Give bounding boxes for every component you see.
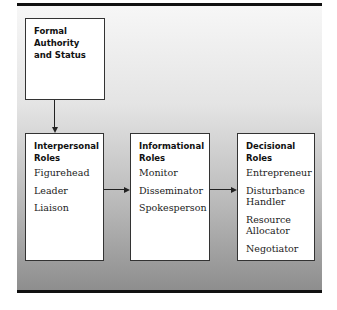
informational-roles-box: Informational Roles Monitor Disseminator… <box>130 133 210 261</box>
role-item: Figurehead <box>34 167 95 179</box>
interpersonal-roles-box: Interpersonal Roles Figurehead Leader Li… <box>25 133 104 261</box>
top-rule <box>17 3 322 6</box>
role-item: Entrepreneur <box>246 167 306 179</box>
decisional-roles-title: Decisional Roles <box>246 140 306 164</box>
connector-right-2 <box>210 189 231 190</box>
role-item: Resource Allocator <box>246 214 306 237</box>
role-item: Disseminator <box>139 185 201 197</box>
informational-roles-title: Informational Roles <box>139 140 201 164</box>
formal-authority-title: Formal Authority and Status <box>34 25 96 61</box>
role-item: Monitor <box>139 167 201 179</box>
connector-down <box>54 100 55 127</box>
decisional-roles-box: Decisional Roles Entrepreneur Disturbanc… <box>237 133 315 261</box>
bottom-rule <box>17 290 322 293</box>
connector-right-1 <box>104 189 124 190</box>
role-item: Leader <box>34 185 95 197</box>
role-item: Spokesperson <box>139 202 201 214</box>
role-item: Disturbance Handler <box>246 185 306 208</box>
interpersonal-roles-title: Interpersonal Roles <box>34 140 95 164</box>
role-item: Liaison <box>34 202 95 214</box>
role-item: Negotiator <box>246 243 306 255</box>
formal-authority-box: Formal Authority and Status <box>25 18 105 100</box>
